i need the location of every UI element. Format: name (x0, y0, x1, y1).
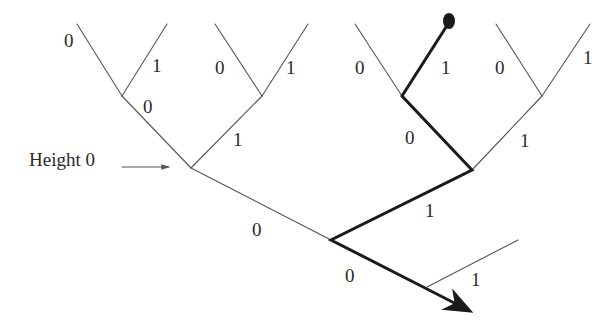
edge-label: 1 (152, 56, 162, 75)
edge-label: 0 (355, 58, 365, 77)
edge-n2-h0 (191, 96, 262, 168)
edge-label: 1 (520, 131, 530, 150)
edge-label: 1 (233, 130, 243, 149)
edge-label: 0 (345, 266, 355, 285)
edge-label: 0 (143, 97, 153, 116)
edge-label: 0 (252, 220, 262, 239)
edge-label: 1 (441, 58, 451, 77)
edge-label: 1 (471, 270, 481, 289)
height0-label: Height 0 (29, 150, 95, 169)
edge-leaf-2-1 (262, 24, 308, 96)
edge-label: 0 (495, 58, 505, 77)
edge-label: 0 (405, 128, 415, 147)
path-start-dot (443, 13, 455, 29)
edge-label: 0 (215, 58, 225, 77)
edge-n1-h0 (122, 96, 191, 168)
edge-label: 1 (286, 58, 296, 77)
edge-label: 1 (583, 48, 593, 67)
edge-label: 1 (425, 201, 435, 220)
edge-leaf-1-0 (77, 24, 122, 96)
edge-label: 0 (64, 31, 74, 50)
edge-n4-nB (472, 96, 542, 170)
